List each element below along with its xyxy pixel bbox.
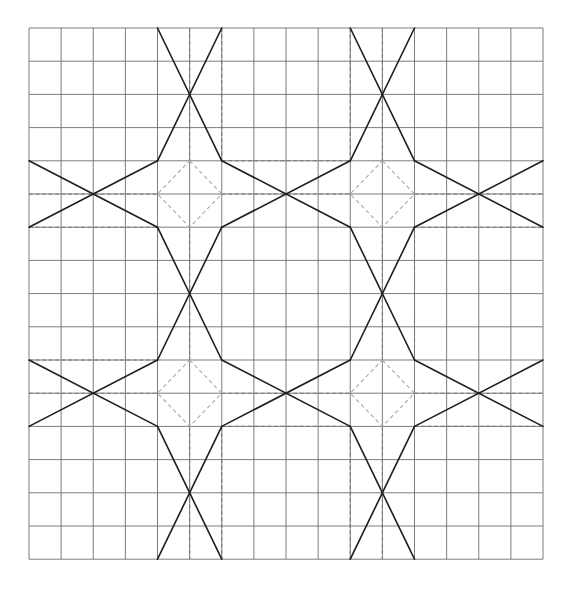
background <box>0 0 579 592</box>
star-pattern-diagram <box>0 0 579 592</box>
